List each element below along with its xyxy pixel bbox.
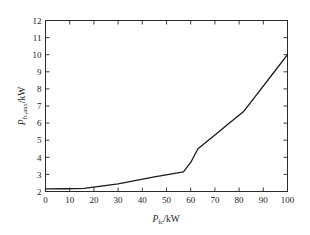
y-tick-label-5: 5 [37,135,42,145]
x-tick-label-70: 70 [210,195,220,205]
x-tick-label-90: 90 [259,195,269,205]
x-tick-label-20: 20 [89,195,99,205]
y-tick-label-11: 11 [33,33,42,43]
x-tick-label-50: 50 [162,195,172,205]
chart-svg: 0102030405060708090100 23456789101112 Pf… [0,0,310,235]
x-tick-label-60: 60 [186,195,196,205]
y-tick-label-6: 6 [37,118,42,128]
x-tick-label-80: 80 [235,195,245,205]
chart-figure: 0102030405060708090100 23456789101112 Pf… [0,0,310,235]
y-tick-label-12: 12 [33,16,42,26]
y-tick-label-9: 9 [37,67,42,77]
y-tick-label-8: 8 [37,84,42,94]
y-tick-label-3: 3 [37,170,42,180]
x-tick-label-10: 10 [65,195,75,205]
y-tick-label-10: 10 [33,50,43,60]
x-tick-label-40: 40 [138,195,148,205]
x-axis-title: Pfc/kW [151,214,179,225]
y-tick-label-7: 7 [37,101,42,111]
x-tick-label-0: 0 [43,195,48,205]
x-tick-label-30: 30 [114,195,124,205]
x-tick-label-100: 100 [281,195,295,205]
y-tick-label-2: 2 [37,187,42,197]
y-tick-label-4: 4 [37,153,42,163]
